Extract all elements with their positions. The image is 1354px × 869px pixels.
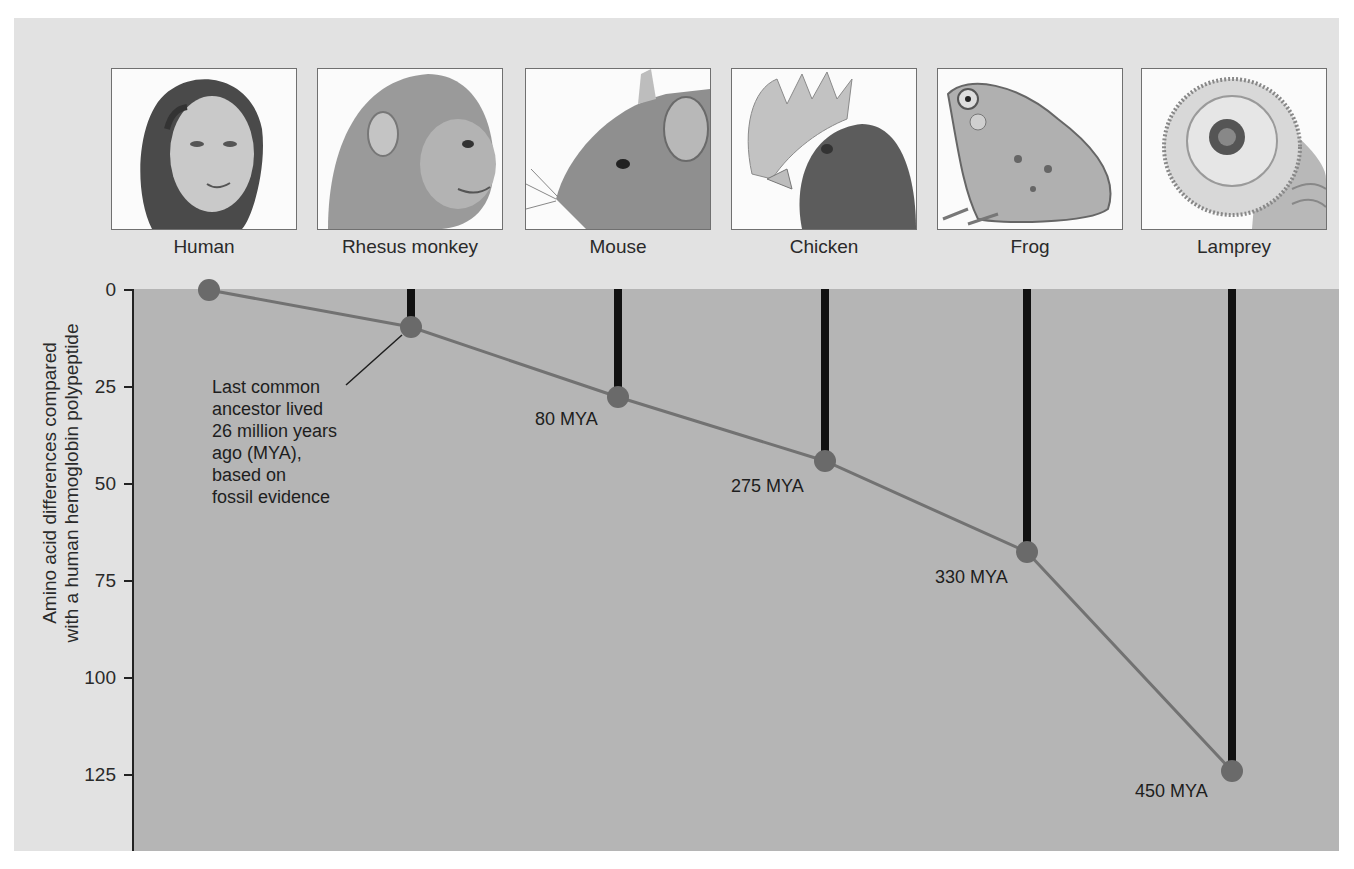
- annotation-line: Last common: [212, 376, 337, 398]
- annotation-line: ancestor lived: [212, 398, 337, 420]
- point-human: [198, 279, 220, 301]
- point-mouse: [607, 386, 629, 408]
- branch-frog: [1023, 289, 1031, 552]
- difference-line: [209, 290, 1232, 771]
- point-rhesus-monkey: [400, 316, 422, 338]
- annotation-line: 26 million years: [212, 420, 337, 442]
- branch-chicken: [821, 289, 829, 461]
- annotation-line: fossil evidence: [212, 486, 337, 508]
- point-frog: [1016, 541, 1038, 563]
- annotation-line: based on: [212, 464, 337, 486]
- point-lamprey: [1221, 760, 1243, 782]
- mya-label-frog: 330 MYA: [935, 567, 1008, 588]
- point-chicken: [814, 450, 836, 472]
- mya-label-mouse: 80 MYA: [535, 409, 598, 430]
- branch-lamprey: [1228, 289, 1236, 771]
- mya-label-lamprey: 450 MYA: [1135, 781, 1208, 802]
- ancestor-annotation: Last common ancestor lived 26 million ye…: [212, 376, 337, 508]
- annotation-line: ago (MYA),: [212, 442, 337, 464]
- mya-label-chicken: 275 MYA: [731, 476, 804, 497]
- chart-plot: [0, 0, 1354, 869]
- branch-mouse: [614, 289, 622, 397]
- annotation-leader: [346, 335, 402, 385]
